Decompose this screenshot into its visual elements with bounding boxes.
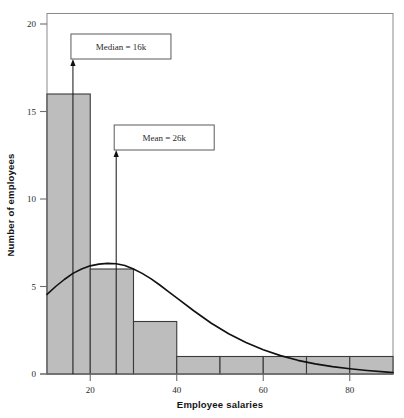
histogram-bar (90, 269, 133, 374)
x-tick-label: 40 (172, 385, 182, 395)
histogram-bar (177, 357, 220, 375)
x-axis-ticks: 20406080 (86, 374, 355, 395)
y-tick-label: 5 (32, 282, 37, 292)
x-tick-label: 80 (345, 385, 355, 395)
histogram-bar (263, 357, 306, 375)
y-tick-label: 10 (27, 194, 37, 204)
y-axis-ticks: 05101520 (27, 19, 47, 379)
chart-canvas: 05101520 20406080 Median = 16kMean = 26k… (0, 0, 404, 418)
x-tick-label: 60 (259, 385, 269, 395)
y-tick-label: 0 (32, 369, 37, 379)
histogram-chart: 05101520 20406080 Median = 16kMean = 26k… (0, 0, 404, 418)
bars-group (47, 94, 393, 374)
annotation-label: Median = 16k (96, 42, 147, 52)
x-axis-title: Employee salaries (177, 399, 263, 410)
annotation-label: Mean = 26k (142, 133, 186, 143)
y-tick-label: 20 (27, 19, 37, 29)
annotation-arrow-head (70, 59, 75, 66)
histogram-bar (47, 94, 90, 374)
x-tick-label: 20 (86, 385, 96, 395)
annotation-arrow-head (114, 150, 119, 157)
histogram-bar (220, 357, 263, 375)
y-tick-label: 15 (27, 107, 37, 117)
y-axis-title: Number of employees (5, 153, 16, 256)
histogram-bar (134, 322, 177, 375)
